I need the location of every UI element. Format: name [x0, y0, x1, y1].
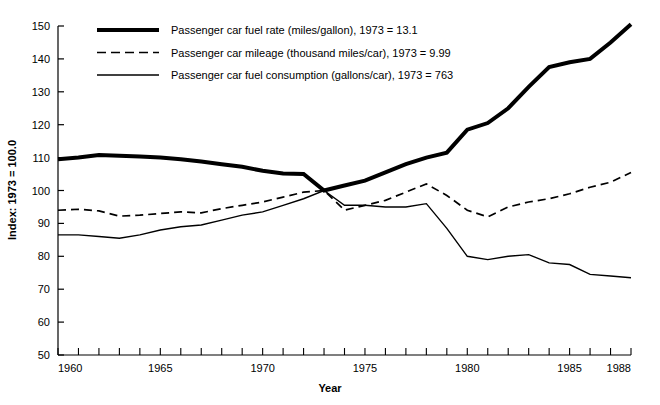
x-axis: 1960196519701975198019851988 — [58, 348, 631, 374]
x-axis-tick-label: 1985 — [557, 362, 581, 374]
series-line-mileage — [58, 172, 631, 216]
x-axis-tick-label: 1965 — [148, 362, 172, 374]
y-axis-tick-label: 100 — [32, 185, 50, 197]
chart-legend: Passenger car fuel rate (miles/gallon), … — [97, 24, 453, 81]
legend-label-mileage: Passenger car mileage (thousand miles/ca… — [171, 47, 451, 59]
y-axis-tick-label: 80 — [38, 250, 50, 262]
y-axis-tick-label: 150 — [32, 20, 50, 32]
y-axis-tick-label: 70 — [38, 283, 50, 295]
data-series-group — [58, 24, 631, 277]
x-axis-tick-label: 1960 — [58, 362, 82, 374]
y-axis-tick-label: 130 — [32, 86, 50, 98]
y-axis-tick-label: 50 — [38, 349, 50, 361]
y-axis-tick-label: 120 — [32, 119, 50, 131]
legend-label-fuel-rate: Passenger car fuel rate (miles/gallon), … — [171, 24, 418, 36]
y-axis-title: Index: 1973 = 100.0 — [6, 140, 18, 240]
x-axis-tick-label: 1980 — [455, 362, 479, 374]
x-axis-tick-label: 1975 — [353, 362, 377, 374]
y-axis-tick-label: 110 — [32, 152, 50, 164]
legend-label-fuel-consumption: Passenger car fuel consumption (gallons/… — [171, 69, 453, 81]
chart-container: 5060708090100110120130140150 19601965197… — [0, 0, 660, 405]
fuel-index-line-chart: 5060708090100110120130140150 19601965197… — [0, 0, 660, 405]
y-axis: 5060708090100110120130140150 — [32, 20, 64, 361]
y-axis-tick-label: 60 — [38, 316, 50, 328]
x-axis-tick-label: 1988 — [607, 362, 631, 374]
x-axis-tick-label: 1970 — [250, 362, 274, 374]
series-line-fuel-consumption — [58, 191, 631, 278]
y-axis-tick-label: 140 — [32, 53, 50, 65]
x-axis-title: Year — [318, 382, 342, 394]
y-axis-tick-label: 90 — [38, 217, 50, 229]
